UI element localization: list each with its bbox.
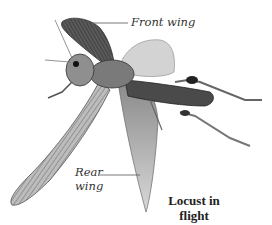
antenna-2 [45,60,70,62]
front-leg [48,82,72,98]
thorax [90,60,134,88]
eye [73,61,79,67]
center-rear-wing [118,82,158,212]
locust-diagram: Front wing Rear wing Locust in flight [0,0,272,225]
rear-wing-label-line2: wing [75,180,103,193]
caption-line2: flight [162,208,226,223]
head [66,54,94,86]
hind-leg-lower [180,112,250,146]
caption-line1: Locust in [162,193,226,208]
rear-wing-label-line1: Rear [75,166,103,179]
locust-illustration [0,0,272,225]
front-wing-label: Front wing [131,16,195,29]
